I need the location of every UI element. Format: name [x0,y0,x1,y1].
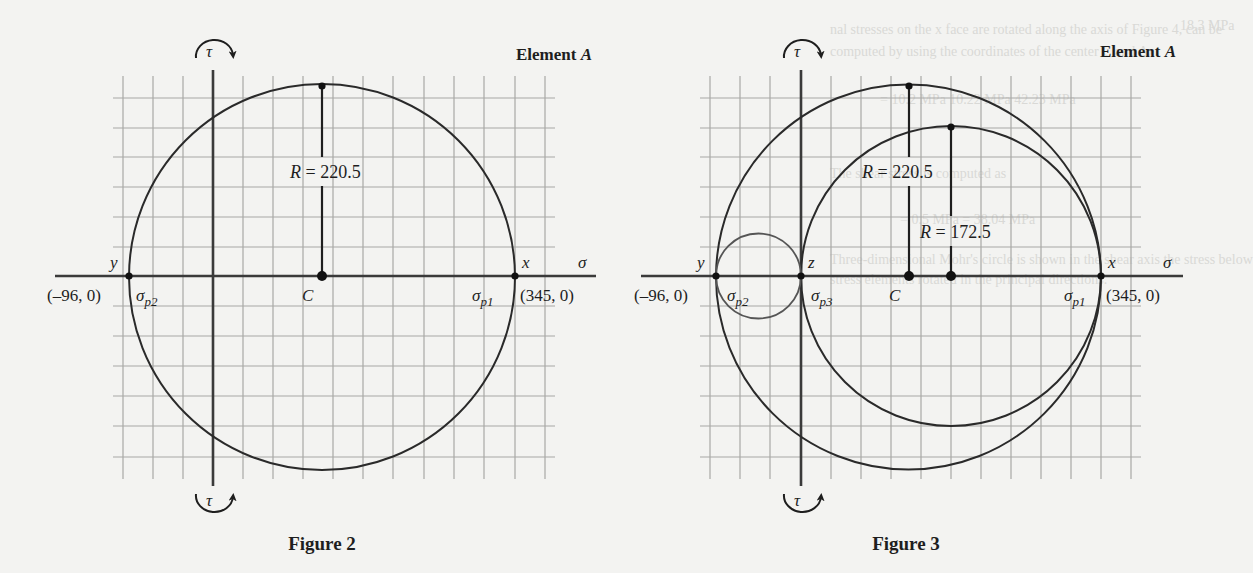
point-z-label: z [807,253,815,272]
point-top [318,82,325,89]
grid [113,76,555,479]
sigma-axis-label: σ [578,253,587,272]
element-title: Element A [1100,42,1176,61]
point-center [904,271,914,281]
point-top-inner [947,123,954,130]
radius-label: R = 220.5 [289,162,361,182]
center-label: C [889,286,901,305]
point-center-inner [946,271,956,281]
tau-bottom-label: τ [206,491,213,510]
point-y-coord: (–96, 0) [47,286,101,305]
point-y-label: y [108,253,118,272]
point-x-coord: (345, 0) [520,286,574,305]
point-y-label: y [695,253,705,272]
point-x-label: x [1107,253,1116,272]
center-label: C [302,286,314,305]
sigma-axis-label: σ [1163,253,1172,272]
element-title: Element A [516,45,592,64]
radius-outer-label: R = 220.5 [861,162,933,182]
point-center [317,271,327,281]
tau-top-label: τ [206,42,213,61]
point-x-coord: (345, 0) [1106,286,1160,305]
point-y [125,272,132,279]
rotation-arrow-icon [196,494,233,512]
point-x [511,272,518,279]
point-x-label: x [521,253,530,272]
radius-inner-label: R = 172.5 [919,222,991,242]
point-z [797,272,804,279]
tau-top-label: τ [794,42,801,61]
figure-caption: Figure 2 [288,533,356,554]
rotation-arrow-icon [784,494,821,512]
rotation-arrow-icon [784,40,821,58]
figure-2: τ τ Element A R = 220.5 y x σ (–96, 0) (… [47,40,596,554]
point-top-outer [905,82,912,89]
point-x [1097,272,1104,279]
point-y-coord: (–96, 0) [634,286,688,305]
point-y [712,272,719,279]
figure-caption: Figure 3 [872,533,940,554]
grid [700,76,1141,479]
rotation-arrow-icon [196,40,233,58]
tau-bottom-label: τ [794,491,801,510]
figure-3: τ τ Element A R = 220.5 R = 172.5 y z x … [634,40,1183,554]
